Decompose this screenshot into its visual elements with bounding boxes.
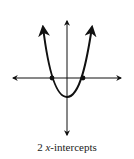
x-intercept-point-left <box>50 76 55 81</box>
caption-suffix: -intercepts <box>50 141 96 153</box>
caption-number: 2 <box>37 141 43 153</box>
caption: 2 x-intercepts <box>0 141 134 153</box>
x-intercept-point-right <box>81 76 86 81</box>
parabola-diagram <box>0 0 134 159</box>
